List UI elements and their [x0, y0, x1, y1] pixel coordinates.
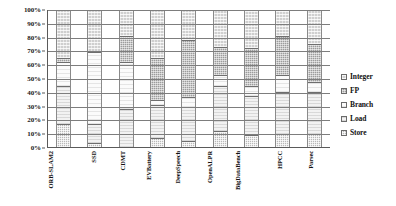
x-axis-tick-label: Parsec	[309, 151, 316, 169]
x-axis-tick-label: OpenALPR	[207, 151, 214, 183]
y-axis-tick-label: 0%	[0, 145, 41, 152]
bar-segment-integer[interactable]	[88, 11, 101, 53]
y-axis-tick-label: 60%	[0, 62, 41, 69]
bar-segment-integer[interactable]	[276, 11, 289, 37]
x-axis-slot: HPCC	[267, 149, 298, 206]
bar-segment-fp[interactable]	[308, 45, 321, 83]
bar-segment-branch[interactable]	[88, 53, 101, 125]
bar-segment-integer[interactable]	[120, 11, 133, 37]
x-axis: ORB-SLAM2SSDCDMTEVBatteryDeepSpeechOpenA…	[47, 149, 330, 206]
stacked-bar[interactable]	[307, 10, 322, 147]
bar-segment-branch[interactable]	[276, 76, 289, 92]
legend-item-store[interactable]: Store	[341, 126, 396, 140]
y-axis-tick-label: 30%	[0, 103, 41, 110]
legend-item-branch[interactable]: Branch	[341, 98, 396, 112]
bar-segment-load[interactable]	[88, 125, 101, 144]
bar-segment-store[interactable]	[151, 139, 164, 147]
y-axis-tick-label: 100%	[0, 7, 41, 14]
bar-segment-store[interactable]	[214, 132, 227, 147]
bar-slot	[48, 10, 79, 147]
bar-segment-integer[interactable]	[245, 11, 258, 49]
bar-segment-branch[interactable]	[57, 63, 70, 87]
bar-segment-fp[interactable]	[276, 37, 289, 76]
x-axis-tick-label: SSD	[92, 151, 99, 163]
bar-segment-store[interactable]	[308, 135, 321, 147]
stacked-bar[interactable]	[244, 10, 259, 147]
bar-segment-fp[interactable]	[245, 49, 258, 87]
bar-segment-branch[interactable]	[120, 63, 133, 111]
bar-segment-branch[interactable]	[182, 98, 195, 108]
bar-segment-load[interactable]	[308, 93, 321, 135]
x-axis-tick-label: BigDataBench	[235, 151, 242, 190]
x-axis-tick-label: ORB-SLAM2	[47, 151, 54, 188]
x-axis-tick-label: DeepSpeech	[175, 151, 182, 184]
bar-segment-branch[interactable]	[214, 76, 227, 87]
y-axis-tick-mark	[42, 120, 45, 121]
legend-label: Integer	[350, 73, 373, 81]
stacked-bar[interactable]	[119, 10, 134, 147]
y-axis-tick-mark	[42, 37, 45, 38]
y-axis-tick-label: 40%	[0, 89, 41, 96]
legend-item-integer[interactable]: Integer	[341, 70, 396, 84]
legend-swatch-icon	[341, 116, 347, 122]
bar-segment-load[interactable]	[182, 108, 195, 142]
bar-segment-integer[interactable]	[57, 11, 70, 59]
y-axis-tick-mark	[42, 23, 45, 24]
bar-segment-branch[interactable]	[245, 87, 258, 97]
bar-group	[48, 10, 330, 147]
y-axis-tick-label: 50%	[0, 76, 41, 83]
bar-slot	[267, 10, 298, 147]
bar-segment-store[interactable]	[88, 144, 101, 147]
bar-slot	[142, 10, 173, 147]
bar-segment-branch[interactable]	[308, 83, 321, 93]
y-axis-tick-label: 20%	[0, 117, 41, 124]
x-axis-slot: OpenALPR	[204, 149, 235, 206]
bar-segment-store[interactable]	[245, 136, 258, 147]
y-axis-tick-mark	[42, 51, 45, 52]
legend-swatch-icon	[341, 102, 347, 108]
bar-segment-store[interactable]	[276, 135, 289, 147]
legend-item-fp[interactable]: FP	[341, 84, 396, 98]
bar-segment-load[interactable]	[276, 93, 289, 135]
bar-segment-fp[interactable]	[214, 48, 227, 77]
x-axis-slot: DeepSpeech	[173, 149, 204, 206]
y-axis-tick-mark	[42, 148, 45, 149]
x-axis-slot: Parsec	[299, 149, 330, 206]
y-axis-tick-label: 90%	[0, 20, 41, 27]
legend-item-load[interactable]: Load	[341, 112, 396, 126]
bar-segment-fp[interactable]	[120, 37, 133, 63]
y-axis-tick-mark	[42, 10, 45, 11]
stacked-bar[interactable]	[275, 10, 290, 147]
bar-segment-store[interactable]	[57, 125, 70, 147]
y-axis-tick-label: 10%	[0, 131, 41, 138]
stacked-bar[interactable]	[56, 10, 71, 147]
legend-label: Load	[350, 115, 366, 123]
bar-segment-load[interactable]	[57, 87, 70, 125]
bar-segment-integer[interactable]	[151, 11, 164, 59]
stacked-bar[interactable]	[181, 10, 196, 147]
bar-slot	[299, 10, 330, 147]
bar-slot	[111, 10, 142, 147]
x-axis-tick-label: CDMT	[119, 151, 126, 170]
chart-legend: IntegerFPBranchLoadStore	[341, 70, 396, 140]
legend-swatch-icon	[341, 88, 347, 94]
stacked-bar[interactable]	[87, 10, 102, 147]
bar-segment-fp[interactable]	[182, 41, 195, 98]
plot-area	[47, 10, 330, 148]
bar-segment-load[interactable]	[214, 87, 227, 132]
bar-segment-integer[interactable]	[214, 11, 227, 48]
x-axis-slot: EVBattery	[141, 149, 172, 206]
chart-page: 100%90%80%70%60%50%40%30%20%10%0% ORB-SL…	[0, 0, 396, 206]
stacked-bar[interactable]	[150, 10, 165, 147]
bar-segment-load[interactable]	[151, 106, 164, 139]
bar-segment-load[interactable]	[245, 97, 258, 136]
bar-segment-integer[interactable]	[308, 11, 321, 45]
bar-slot	[205, 10, 236, 147]
x-axis-slot: CDMT	[110, 149, 141, 206]
x-axis-slot: SSD	[78, 149, 109, 206]
bar-segment-load[interactable]	[120, 110, 133, 147]
bar-segment-integer[interactable]	[182, 11, 195, 41]
bar-segment-fp[interactable]	[151, 59, 164, 101]
bar-segment-store[interactable]	[182, 142, 195, 147]
stacked-bar[interactable]	[213, 10, 228, 147]
